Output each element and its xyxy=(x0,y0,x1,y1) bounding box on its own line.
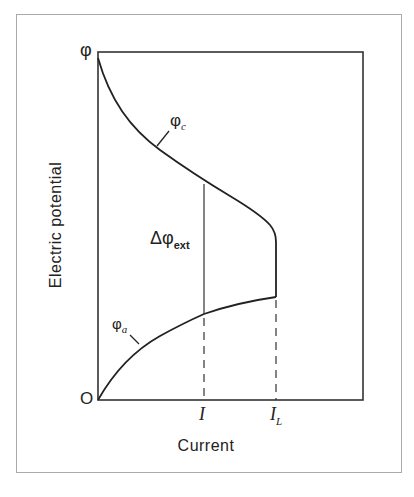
delta-phi-symbol: Δφ xyxy=(150,228,174,248)
delta-phi-subscript: ext xyxy=(174,239,190,251)
tick-label-IL: IL xyxy=(270,404,282,427)
phi-c-leader xyxy=(157,131,169,146)
origin-label: O xyxy=(80,389,93,409)
plot-box xyxy=(98,52,363,400)
phi-a-label: φa xyxy=(112,315,127,335)
phi-c-subscript: c xyxy=(181,120,186,132)
tick-label-I: I xyxy=(199,404,205,425)
phi-c-symbol: φ xyxy=(170,111,181,130)
phi-a-symbol: φ xyxy=(112,315,122,332)
tick-IL-subscript: L xyxy=(276,415,282,427)
phi-c-label: φc xyxy=(170,111,186,132)
delta-phi-ext-label: Δφext xyxy=(150,228,190,251)
phi-c-curve xyxy=(98,58,276,297)
phi-a-curve xyxy=(98,297,276,400)
y-max-label: φ xyxy=(80,40,92,61)
phi-a-leader xyxy=(130,335,139,344)
x-axis-label: Current xyxy=(178,437,235,455)
y-axis-label: Electric potential xyxy=(47,162,65,288)
phi-a-subscript: a xyxy=(122,323,128,335)
